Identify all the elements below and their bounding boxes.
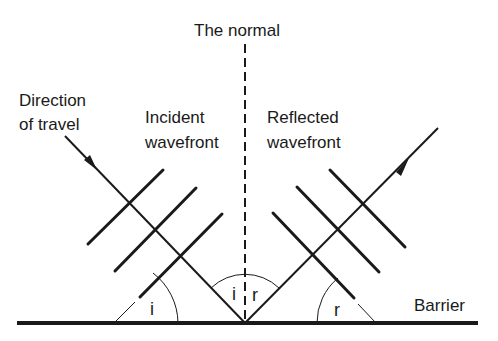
- direction-label-line1: Direction: [19, 91, 86, 111]
- reflected-arrowhead-icon: [396, 158, 409, 176]
- angle-r-right-label: r: [334, 300, 340, 320]
- reflected-ray: [245, 128, 438, 323]
- normal-label: The normal: [194, 21, 280, 41]
- reflection-diagram: The normal Direction of travel Incident …: [0, 0, 498, 341]
- incident-wavefront-label-line2: wavefront: [145, 133, 219, 153]
- direction-label-line2: of travel: [19, 115, 79, 135]
- angle-i-center-label: i: [232, 284, 236, 304]
- reflected-wavefronts: [273, 170, 405, 298]
- angle-i-left-label: i: [150, 299, 154, 319]
- reflected-wavefront-3: [330, 170, 405, 247]
- angle-r-center-label: r: [252, 285, 258, 305]
- barrier-label: Barrier: [414, 296, 465, 316]
- reflected-wavefront-label-line1: Reflected: [267, 108, 339, 128]
- diagram-canvas: [0, 0, 498, 341]
- incident-wavefront-extension: [114, 302, 135, 323]
- incident-wavefront-label-line1: Incident: [145, 108, 205, 128]
- reflected-wavefront-extension: [358, 304, 376, 323]
- reflected-wavefront-label-line2: wavefront: [267, 133, 341, 153]
